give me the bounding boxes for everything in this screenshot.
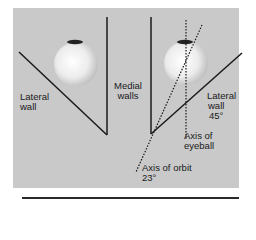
- label-line: 45°: [207, 111, 236, 121]
- lateral-wall-right-label: Lateral wall 45°: [207, 91, 236, 121]
- label-line: 23°: [142, 173, 192, 183]
- label-line: walls: [114, 91, 142, 101]
- axis-of-eyeball-label: Axis of eyeball: [184, 131, 214, 151]
- axis-of-orbit-label: Axis of orbit 23°: [142, 163, 192, 183]
- label-line: wall: [20, 102, 49, 112]
- medial-walls-label: Medial walls: [114, 81, 142, 101]
- label-line: eyeball: [184, 141, 214, 151]
- lateral-wall-left-label: Lateral wall: [20, 92, 49, 112]
- bottom-rule: [22, 197, 239, 199]
- left-eyeball: [54, 40, 98, 86]
